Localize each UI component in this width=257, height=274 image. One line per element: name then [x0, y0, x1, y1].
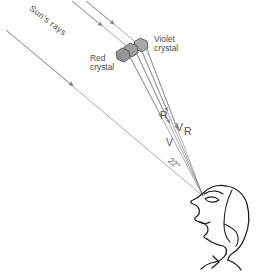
violet-crystal-label: Violet crystal [154, 35, 178, 54]
halo-refraction-diagram: Sun's rays Red crystal Violet crystal R … [0, 0, 257, 274]
ray-label-v-upper: V [176, 122, 183, 134]
ice-crystal-cluster [116, 38, 148, 62]
jaw-neck-line [207, 239, 226, 254]
observer-head-profile-icon [191, 185, 249, 270]
refracted-ray-v-inner-head [130, 57, 161, 116]
shoulder-line-right [228, 260, 241, 270]
hair-inner-line [224, 190, 232, 242]
eye-outline [205, 197, 219, 202]
ray-label-r-upper: R [160, 110, 168, 122]
collar-line [215, 254, 226, 262]
ray-label-v-lower: V [166, 137, 173, 149]
diagram-canvas [0, 0, 257, 274]
red-crystal-label: Red crystal [90, 54, 114, 73]
ray-label-r-lower: R [184, 126, 192, 138]
sun-ray-2-head [72, 1, 101, 25]
face-profile-line [191, 185, 226, 239]
mouth-line [199, 222, 210, 224]
refracted-ray-r-outer-head [141, 49, 167, 110]
eye-brow-line [204, 191, 223, 194]
sun-ray-1-head [86, 1, 113, 23]
